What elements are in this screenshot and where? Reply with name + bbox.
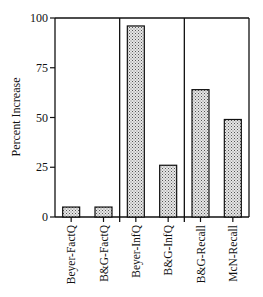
y-tick-label: 25 bbox=[36, 160, 48, 174]
x-axis: Beyer-FactQB&G-FactQBeyer-InfQB&G-InfQB&… bbox=[65, 217, 239, 284]
x-tick-label: B&G-Recall bbox=[195, 225, 207, 283]
y-tick-label: 50 bbox=[36, 111, 48, 125]
x-tick-label: Beyer-FactQ bbox=[65, 224, 78, 284]
bar bbox=[224, 119, 241, 217]
bar bbox=[127, 26, 144, 217]
plot-frame bbox=[55, 18, 249, 217]
bars bbox=[63, 26, 242, 217]
y-axis: 0255075100 bbox=[30, 11, 55, 224]
x-tick-label: Beyer-InfQ bbox=[130, 224, 143, 277]
x-tick-label: McN-Recall bbox=[227, 225, 239, 282]
bar-chart: 0255075100 Beyer-FactQB&G-FactQBeyer-Inf… bbox=[0, 0, 263, 297]
y-axis-title: Percent Increase bbox=[9, 78, 23, 157]
bar bbox=[160, 165, 177, 217]
y-tick-label: 100 bbox=[30, 11, 48, 25]
x-tick-label: B&G-FactQ bbox=[98, 224, 110, 282]
bar bbox=[63, 207, 80, 217]
x-tick-label: B&G-InfQ bbox=[162, 224, 174, 275]
y-tick-label: 0 bbox=[42, 210, 48, 224]
bar bbox=[192, 90, 209, 217]
y-tick-label: 75 bbox=[36, 61, 48, 75]
bar bbox=[95, 207, 112, 217]
